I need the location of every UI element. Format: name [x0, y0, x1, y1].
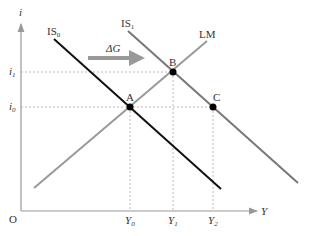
guide-lines: [21, 72, 213, 211]
lm-curve: [34, 41, 207, 188]
is0-label: IS0: [47, 25, 61, 39]
origin-label: O: [9, 213, 17, 225]
tick-y2: Y2: [208, 214, 218, 228]
point-a: [127, 104, 134, 111]
point-b-label: B: [169, 56, 176, 68]
point-a-label: A: [126, 91, 134, 103]
is-lm-diagram: i Y O IS0 IS1 LM ΔG A B C i1 i0 Y0 Y1 Y2: [0, 0, 310, 236]
y-axis-label: i: [19, 6, 22, 18]
tick-y0: Y0: [125, 214, 135, 228]
delta-g-label: ΔG: [105, 42, 120, 54]
x-axis-label: Y: [261, 205, 269, 217]
point-c-label: C: [213, 91, 220, 103]
is1-label: IS1: [121, 17, 135, 31]
point-c: [210, 104, 217, 111]
lm-label: LM: [199, 28, 216, 40]
point-b: [170, 69, 177, 76]
tick-i1: i1: [9, 65, 16, 79]
tick-i0: i0: [9, 100, 16, 114]
tick-y1: Y1: [168, 214, 178, 228]
is0-curve: [54, 39, 221, 189]
